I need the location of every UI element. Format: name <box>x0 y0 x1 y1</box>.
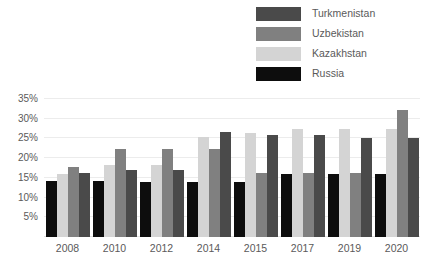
x-axis-tick-label: 2020 <box>373 243 420 254</box>
legend-item-label: Russia <box>312 68 344 79</box>
bar[interactable] <box>93 181 104 237</box>
legend-item-label: Uzbekistan <box>312 28 364 39</box>
x-axis-tick-label: 2008 <box>44 243 91 254</box>
y-axis-tick-label: 5% <box>24 212 38 222</box>
x-axis-labels: 20082010201220142015201720192020 <box>44 243 420 254</box>
bar[interactable] <box>292 129 303 237</box>
bar[interactable] <box>350 173 361 237</box>
legend-swatch <box>256 7 301 21</box>
bar-chart: TurkmenistanUzbekistanKazakhstanRussia 5… <box>0 0 429 271</box>
bar[interactable] <box>339 129 350 237</box>
y-axis-tick-label: 15% <box>18 173 38 183</box>
bar-group <box>232 99 279 237</box>
bar-group <box>326 99 373 237</box>
bar[interactable] <box>375 174 386 237</box>
bar[interactable] <box>328 174 339 237</box>
x-axis-tick-label: 2019 <box>326 243 373 254</box>
bar[interactable] <box>173 170 184 237</box>
bar[interactable] <box>104 165 115 237</box>
bar[interactable] <box>209 149 220 237</box>
x-axis-tick-label: 2014 <box>185 243 232 254</box>
legend-item[interactable]: Kazakhstan <box>256 46 375 61</box>
bar[interactable] <box>220 132 231 237</box>
bar[interactable] <box>256 173 267 237</box>
bar[interactable] <box>187 182 198 237</box>
bar[interactable] <box>386 129 397 237</box>
x-axis-tick-label: 2015 <box>232 243 279 254</box>
y-axis-tick-label: 20% <box>18 153 38 163</box>
bar[interactable] <box>115 149 126 237</box>
bar[interactable] <box>234 182 245 237</box>
y-axis-tick-label: 30% <box>18 114 38 124</box>
bar[interactable] <box>198 137 209 237</box>
legend-item-label: Turkmenistan <box>312 8 375 19</box>
bar[interactable] <box>79 173 90 237</box>
legend-item[interactable]: Uzbekistan <box>256 26 375 41</box>
bar-group <box>44 99 91 237</box>
bar[interactable] <box>68 167 79 237</box>
bar-group <box>91 99 138 237</box>
bar[interactable] <box>126 170 137 237</box>
bar[interactable] <box>303 173 314 237</box>
bar-group <box>185 99 232 237</box>
bar-group <box>279 99 326 237</box>
y-axis-tick-label: 35% <box>18 94 38 104</box>
bar-group <box>373 99 420 237</box>
x-axis-tick-label: 2012 <box>138 243 185 254</box>
chart-legend: TurkmenistanUzbekistanKazakhstanRussia <box>256 6 375 81</box>
bar[interactable] <box>140 182 151 237</box>
bar-group <box>138 99 185 237</box>
legend-swatch <box>256 27 301 41</box>
bar[interactable] <box>57 174 68 237</box>
y-axis-tick-label: 10% <box>18 193 38 203</box>
bar-groups <box>44 99 420 237</box>
y-axis-tick-label: 25% <box>18 133 38 143</box>
bar[interactable] <box>397 110 408 237</box>
bar[interactable] <box>408 138 419 237</box>
bar[interactable] <box>46 181 57 237</box>
bar[interactable] <box>314 135 325 238</box>
bar[interactable] <box>151 165 162 237</box>
bar[interactable] <box>267 135 278 238</box>
bar[interactable] <box>361 138 372 237</box>
x-axis-tick-label: 2017 <box>279 243 326 254</box>
legend-swatch <box>256 67 301 81</box>
legend-item-label: Kazakhstan <box>312 48 367 59</box>
legend-item[interactable]: Turkmenistan <box>256 6 375 21</box>
x-axis-tick-label: 2010 <box>91 243 138 254</box>
plot-area <box>44 99 420 237</box>
bar[interactable] <box>281 174 292 237</box>
legend-item[interactable]: Russia <box>256 66 375 81</box>
legend-swatch <box>256 47 301 61</box>
bar[interactable] <box>162 149 173 237</box>
bar[interactable] <box>245 133 256 237</box>
y-axis-labels: 5%10%15%20%25%30%35% <box>0 92 38 244</box>
